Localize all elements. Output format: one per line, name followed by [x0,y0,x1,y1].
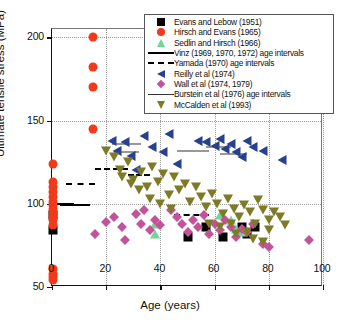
gridline-horizontal [52,121,321,122]
legend-item[interactable]: Hirsch and Evans (1965) [148,27,330,37]
triangle-up-marker [148,38,174,48]
x-tick [160,285,161,290]
x-tick [323,285,324,290]
data-point [264,216,274,225]
legend-item-label: Wall et al (1974, 1979) [174,79,252,89]
legend-item[interactable]: Sedlin and Hirsch (1966) [148,38,330,48]
legend: Evans and Lebow (1951)Hirsch and Evans (… [144,14,334,114]
data-point [191,183,201,192]
data-point [136,219,146,229]
data-point [185,198,195,207]
y-tick [47,287,52,288]
data-point [90,229,100,239]
y-tick-label: 150 [14,114,44,126]
y-tick-label: 200 [14,30,44,42]
data-point [196,193,206,202]
x-tick-label: 100 [314,262,331,274]
y-tick-label: 100 [14,197,44,209]
interval-segment [66,183,96,185]
y-tick [47,121,52,122]
data-point [215,223,225,232]
legend-item[interactable]: Wall et al (1974, 1979) [148,79,330,89]
y-axis-label: Ultimate tensile stress (MPa) [0,10,6,157]
data-point [49,221,58,230]
data-point [107,136,116,146]
data-point [145,194,155,203]
data-point [109,212,119,222]
legend-item-label: Hirsch and Evans (1965) [174,27,260,37]
data-point [245,208,255,217]
x-tick-label: 40 [154,262,165,274]
legend-item-label: Reilly et al (1974) [174,69,234,79]
square-marker [148,17,174,27]
data-point [216,134,225,144]
data-point [49,276,58,285]
legend-item-label: Vinz (1969, 1970, 1972) age intervals [174,48,304,58]
data-point [101,217,111,227]
data-point [148,142,157,152]
interval-segment [60,204,90,206]
data-point [218,209,228,218]
legend-item[interactable]: Evans and Lebow (1951) [148,17,330,27]
data-point [140,131,149,141]
data-point [180,179,190,188]
data-point [109,153,119,162]
data-point [223,194,233,203]
data-point [264,226,274,235]
x-tick-label: 60 [208,262,219,274]
legend-item[interactable]: Yamada (1970) age intervals [148,58,330,68]
legend-item-label: Yamada (1970) age intervals [174,58,274,68]
data-point [159,147,168,157]
data-point [259,146,268,156]
data-point [258,206,268,215]
data-point [280,221,290,230]
data-point [49,159,58,168]
legend-item-label: Evans and Lebow (1951) [174,17,262,27]
thin-line-marker [148,89,174,99]
x-tick [215,285,216,290]
data-point [172,159,181,169]
legend-item[interactable]: Burstein et al (1976) age intervals [148,89,330,99]
data-point [248,142,257,152]
data-point [166,204,176,213]
data-point [207,189,217,198]
data-point [153,178,163,187]
data-point [121,137,130,147]
data-point [304,235,314,245]
data-point [88,63,97,72]
data-point [117,173,127,182]
data-point [155,199,165,208]
data-point [120,235,130,245]
x-tick-label: 20 [100,262,111,274]
data-point [237,152,246,162]
data-point [201,203,211,212]
x-tick [269,285,270,290]
data-point [278,155,287,165]
legend-item-label: Burstein et al (1976) age intervals [174,89,290,99]
x-axis-label: Age (years) [0,299,340,311]
data-point [147,163,157,172]
triangle-down-marker [148,99,174,109]
legend-item[interactable]: Reilly et al (1974) [148,68,330,78]
data-point [212,199,222,208]
legend-item-label: Sedlin and Hirsch (1966) [174,38,260,48]
x-tick [106,285,107,290]
data-point [226,219,236,228]
gridline-vertical [106,29,107,285]
data-point [204,219,214,228]
legend-item[interactable]: Vinz (1969, 1970, 1972) age intervals [148,48,330,58]
data-point [248,234,258,243]
legend-item-label: McCalden et al (1993) [174,100,251,110]
interval-segment [177,150,210,151]
data-point [169,173,179,182]
data-point [253,196,263,205]
data-point [88,83,97,92]
data-point [123,158,133,167]
x-tick [52,285,53,290]
legend-item[interactable]: McCalden et al (1993) [148,99,330,109]
x-tick-label: 80 [262,262,273,274]
x-tick-label: 0 [48,262,54,274]
triangle-left-marker [148,68,174,78]
data-point [164,129,173,139]
data-point [88,33,97,42]
